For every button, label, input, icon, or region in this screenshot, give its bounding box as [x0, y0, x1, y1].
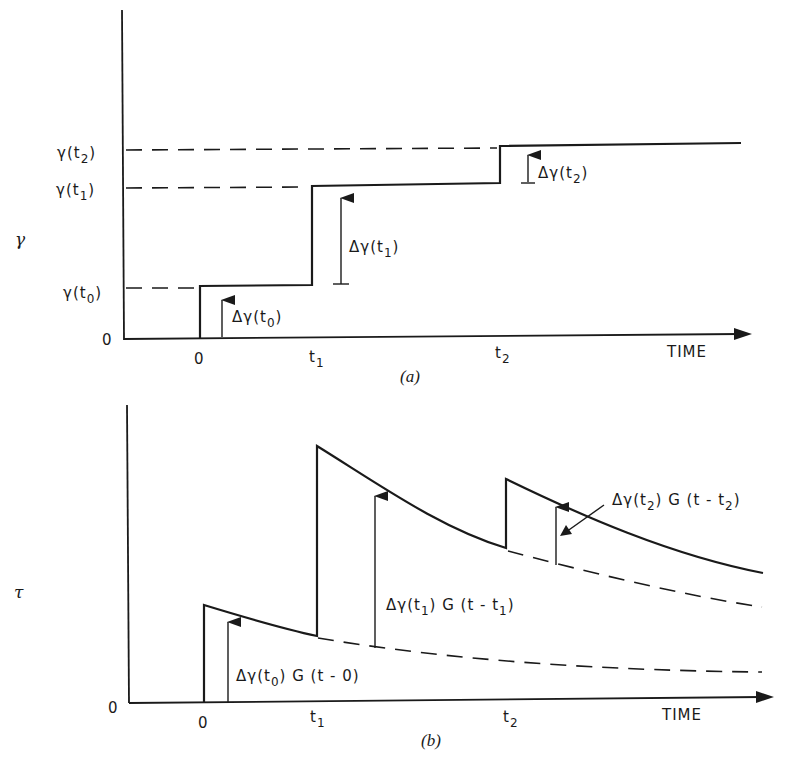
caption-a: (a) — [400, 367, 420, 386]
x-axis-label-time-a: TIME — [666, 343, 707, 361]
svg-text:Δγ(t1) G (t - t1): Δγ(t1) G (t - t1) — [386, 596, 515, 618]
svg-text:Δγ(t0) G (t - 0): Δγ(t0) G (t - 0) — [236, 667, 360, 689]
increment-label-t0: Δγ(t0) — [232, 308, 282, 330]
svg-text:γ(t0): γ(t0) — [63, 284, 102, 306]
dash-gamma-t1 — [126, 187, 308, 188]
x-tick-t2-a: t2 — [495, 344, 511, 366]
increment-label-t1: Δγ(t1) — [349, 238, 399, 260]
dashed-response-t0 — [318, 638, 762, 672]
leader-arrow-icon — [560, 525, 572, 536]
y-axis-b — [127, 405, 129, 703]
response-label-t2: Δγ(t2) G (t - t2) — [612, 491, 741, 513]
x-axis-b — [129, 697, 762, 703]
y-origin-label-a: 0 — [102, 331, 113, 349]
response-label-t0: Δγ(t0) G (t - 0) — [236, 667, 360, 689]
increment-label-t2: Δγ(t2) — [538, 164, 588, 186]
x-tick-0-a: 0 — [194, 350, 205, 368]
panel-b: τ 0 Δγ(t0) G (t - 0) Δγ(t1) G (t - t1) Δ… — [14, 405, 774, 750]
figure-canvas: γ 0 γ(t0) γ(t1) γ(t2) Δγ(t0) Δγ(t1) Δγ(t… — [0, 0, 789, 773]
x-tick-0-b: 0 — [198, 714, 209, 732]
y-axis-a — [122, 10, 124, 340]
dashed-response-t0-t1 — [508, 551, 762, 607]
caption-b: (b) — [421, 731, 441, 750]
x-tick-t1-a: t1 — [309, 348, 325, 370]
svg-text:Δγ(t1): Δγ(t1) — [349, 238, 399, 260]
svg-text:γ(t1): γ(t1) — [56, 181, 95, 203]
svg-text:Δγ(t2): Δγ(t2) — [538, 164, 588, 186]
panel-a: γ 0 γ(t0) γ(t1) γ(t2) Δγ(t0) Δγ(t1) Δγ(t… — [15, 10, 752, 386]
x-axis-label-time-b: TIME — [661, 706, 702, 724]
svg-text:γ(t2): γ(t2) — [57, 144, 96, 166]
y-origin-label-b: 0 — [108, 699, 119, 717]
x-axis-a — [124, 334, 740, 339]
svg-text:Δγ(t2) G (t - t2): Δγ(t2) G (t - t2) — [612, 491, 741, 513]
y-axis-label-tau: τ — [14, 582, 24, 602]
level-label-gamma-t1: γ(t1) — [56, 181, 95, 203]
level-label-gamma-t0: γ(t0) — [63, 284, 102, 306]
x-axis-arrow-icon — [756, 691, 774, 703]
total-stress-curve — [204, 446, 763, 703]
dash-gamma-t2 — [126, 148, 497, 150]
level-label-gamma-t2: γ(t2) — [57, 144, 96, 166]
svg-text:Δγ(t0): Δγ(t0) — [232, 308, 282, 330]
y-axis-label-gamma: γ — [15, 229, 26, 249]
response-label-t1: Δγ(t1) G (t - t1) — [386, 596, 515, 618]
x-axis-arrow-icon — [734, 328, 752, 340]
x-tick-t1-b: t1 — [310, 708, 326, 730]
x-tick-t2-b: t2 — [503, 708, 519, 730]
